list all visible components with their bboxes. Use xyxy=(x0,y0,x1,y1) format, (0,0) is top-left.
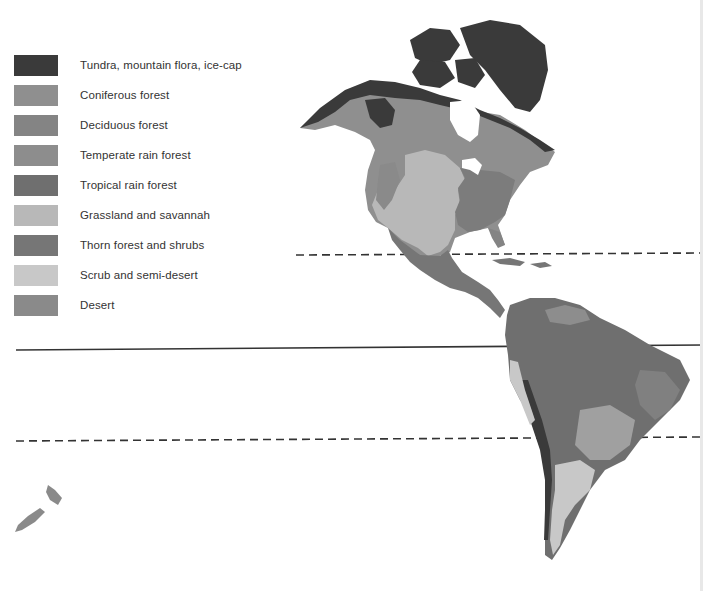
swatch-scrub xyxy=(14,265,58,286)
legend-item-coniferous: Coniferous forest xyxy=(14,80,274,110)
legend-label: Grassland and savannah xyxy=(80,209,210,221)
tropic-of-cancer-line xyxy=(296,253,703,255)
swatch-desert xyxy=(14,295,58,316)
legend-item-scrub: Scrub and semi-desert xyxy=(14,260,274,290)
swatch-tropical-rain xyxy=(14,175,58,196)
legend-label: Tundra, mountain flora, ice-cap xyxy=(80,59,242,71)
legend-label: Tropical rain forest xyxy=(80,179,177,191)
north-america xyxy=(300,20,555,318)
legend-label: Temperate rain forest xyxy=(80,149,191,161)
swatch-grassland xyxy=(14,205,58,226)
new-zealand xyxy=(15,485,62,532)
legend-item-tropical-rain: Tropical rain forest xyxy=(14,170,274,200)
swatch-temperate-rain xyxy=(14,145,58,166)
swatch-tundra xyxy=(14,55,58,76)
legend-label: Coniferous forest xyxy=(80,89,169,101)
legend-label: Scrub and semi-desert xyxy=(80,269,198,281)
swatch-thorn xyxy=(14,235,58,256)
legend-item-thorn: Thorn forest and shrubs xyxy=(14,230,274,260)
legend-label: Desert xyxy=(80,299,114,311)
legend-label: Deciduous forest xyxy=(80,119,168,131)
swatch-coniferous xyxy=(14,85,58,106)
legend-item-desert: Desert xyxy=(14,290,274,320)
legend-label: Thorn forest and shrubs xyxy=(80,239,204,251)
legend-item-temperate-rain: Temperate rain forest xyxy=(14,140,274,170)
legend-item-grassland: Grassland and savannah xyxy=(14,200,274,230)
legend: Tundra, mountain flora, ice-cap Conifero… xyxy=(14,50,274,320)
legend-item-deciduous: Deciduous forest xyxy=(14,110,274,140)
legend-item-tundra: Tundra, mountain flora, ice-cap xyxy=(14,50,274,80)
south-america xyxy=(505,298,690,560)
swatch-deciduous xyxy=(14,115,58,136)
